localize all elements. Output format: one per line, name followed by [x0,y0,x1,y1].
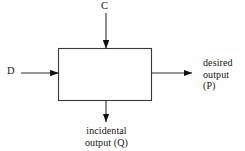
desired-output-line-2: output [203,69,229,80]
process-box [59,49,152,101]
desired-output-line-1: desired [203,57,233,68]
desired-output-label: desiredoutput(P) [203,57,233,92]
diagram-canvas: C D desiredoutput(P) incidentaloutput (Q… [0,0,245,151]
desired-output-line-3: (P) [203,80,216,91]
incidental-output-label: incidentaloutput (Q) [59,125,154,148]
incidental-output-line-1: incidental [86,125,126,136]
material-input-label: D [7,65,15,77]
control-input-label: C [101,0,108,12]
incidental-output-line-2: output (Q) [85,137,128,148]
